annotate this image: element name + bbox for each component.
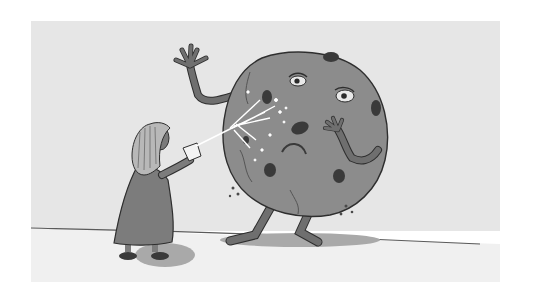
girl-shoe-left bbox=[119, 252, 137, 260]
illustration bbox=[0, 0, 539, 304]
cookie-body bbox=[223, 52, 388, 216]
illustration-canvas bbox=[0, 0, 539, 304]
girl-shoe-right bbox=[151, 252, 169, 260]
